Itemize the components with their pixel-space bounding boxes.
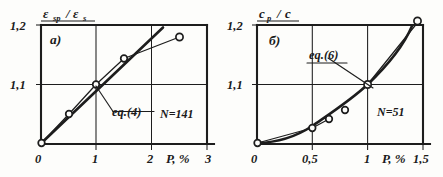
data-point [326, 116, 333, 123]
data-point [38, 140, 45, 147]
panel-b-y-axis-title: c p / c [257, 6, 299, 23]
data-point [66, 111, 73, 118]
data-point [309, 125, 316, 132]
panel-b-ytick-1-2: 1,2 [227, 19, 243, 33]
panel-a-svg: ε sp / ε s 1,2 1,1 0 1 2 3 P, % а) eq.(4… [0, 0, 221, 177]
panel-a-data-line [42, 37, 180, 143]
data-point [414, 17, 421, 24]
panel-b-secant-line [368, 22, 418, 85]
y-title-slash-b: / [276, 6, 282, 21]
y-title-eps1: ε [43, 6, 49, 21]
panel-a-x-axis-title: P, % [166, 151, 190, 166]
panel-b-x-axis-title: P, % [382, 151, 406, 166]
panel-a-ytick-1-1: 1,1 [10, 78, 26, 92]
panel-a-data-points [38, 33, 183, 146]
y-title-c1: c [259, 6, 265, 21]
panel-a-y-axis-title: ε sp / ε s [41, 6, 95, 23]
panel-b-eq-annotation: eq.(6) [309, 48, 339, 62]
panel-a-eq-annotation: eq.(4) [112, 105, 142, 119]
panel-a-xtick-0: 0 [35, 152, 42, 166]
data-point [121, 55, 128, 62]
panel-b-gridlines [257, 25, 423, 144]
panel-a-gridlines [41, 25, 207, 144]
y-title-c2: c [285, 6, 291, 21]
panel-b-label: б) [269, 33, 280, 48]
panel-a-label: а) [50, 32, 61, 47]
data-point [342, 107, 349, 114]
panel-b-ytick-1-1: 1,1 [227, 78, 243, 92]
panel-b: c p / c 1,2 1,1 0 0,5 1 1,5 P, % б) eq.(… [221, 0, 442, 177]
panel-b-xtick-0: 0 [251, 152, 258, 166]
panel-a-xtick-1: 1 [92, 152, 98, 166]
panel-b-xtick-1: 1 [364, 152, 370, 166]
panel-b-xtick-1-5: 1,5 [413, 152, 429, 166]
data-point [254, 140, 261, 147]
figure-container: ε sp / ε s 1,2 1,1 0 1 2 3 P, % а) eq.(4… [0, 0, 443, 177]
y-title-eps2: ε [73, 6, 79, 21]
panel-a-ytick-1-2: 1,2 [10, 19, 26, 33]
panel-a-xtick-3: 3 [204, 152, 211, 166]
panel-a-n-annotation: N=141 [159, 107, 194, 121]
panel-b-svg: c p / c 1,2 1,1 0 0,5 1 1,5 P, % б) eq.(… [221, 0, 442, 177]
y-title-slash: / [65, 6, 71, 21]
panel-a: ε sp / ε s 1,2 1,1 0 1 2 3 P, % а) eq.(4… [0, 0, 221, 177]
panel-b-eq-leader [307, 58, 373, 88]
panel-b-n-annotation: N=51 [376, 105, 405, 119]
data-point [176, 33, 183, 40]
panel-b-xtick-0-5: 0,5 [302, 152, 318, 166]
panel-a-xtick-2: 2 [146, 152, 153, 166]
